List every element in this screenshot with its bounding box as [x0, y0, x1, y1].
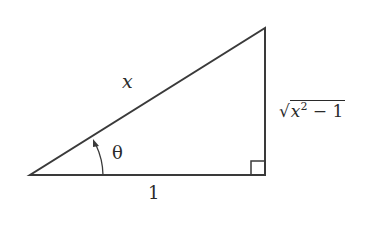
angle-arc	[96, 145, 103, 175]
radicand-base: x	[291, 101, 301, 121]
angle-label: θ	[112, 142, 123, 163]
opposite-label: √x2 − 1	[279, 100, 345, 121]
radicand-rest: − 1	[307, 101, 343, 121]
adjacent-label: 1	[148, 182, 159, 203]
hypotenuse-label: x	[122, 70, 133, 92]
angle-arrowhead-icon	[93, 139, 99, 147]
triangle	[30, 28, 265, 175]
right-angle-marker	[251, 161, 265, 175]
radical-sign: √	[279, 101, 290, 121]
